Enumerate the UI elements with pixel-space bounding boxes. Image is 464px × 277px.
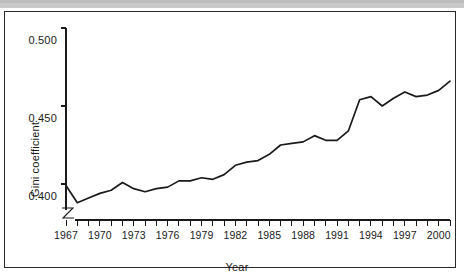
figure-frame: Gini coefficient 0.400 0.450 0.500 19671…: [4, 11, 456, 268]
x-tick-label-1985: 1985: [251, 229, 287, 241]
x-tick-label-1979: 1979: [184, 229, 220, 241]
x-tick-label-1991: 1991: [319, 229, 355, 241]
y-tick-label-0400: 0.400: [17, 190, 57, 202]
x-tick-label-1976: 1976: [150, 229, 186, 241]
y-tick-label-0500: 0.500: [17, 34, 57, 46]
screenshot-root: Gini coefficient 0.400 0.450 0.500 19671…: [0, 0, 464, 277]
axis-break-symbol: [62, 208, 74, 218]
y-tick-label-0450: 0.450: [17, 112, 57, 124]
x-tick-label-1973: 1973: [116, 229, 152, 241]
x-tick-label-1988: 1988: [285, 229, 321, 241]
x-tick-label-1997: 1997: [387, 229, 423, 241]
axis-break-zigzag: [62, 208, 74, 218]
data-series-group: [66, 81, 450, 203]
x-tick-label-1982: 1982: [217, 229, 253, 241]
x-tick-label-2000: 2000: [421, 229, 457, 241]
y-axis-label-wrap: Gini coefficient: [13, 67, 31, 197]
line-chart-plot: [5, 12, 454, 266]
x-axis-label: Year: [187, 261, 287, 273]
top-scan-strip-shade: [0, 0, 464, 3]
axes-group: [61, 28, 450, 226]
x-tick-label-1994: 1994: [353, 229, 389, 241]
x-tick-label-1967: 1967: [48, 229, 84, 241]
x-tick-label-1970: 1970: [82, 229, 118, 241]
y-axis-label: Gini coefficient: [29, 122, 41, 197]
gini-coefficient-line: [66, 81, 450, 203]
top-scan-strip: [0, 0, 464, 8]
